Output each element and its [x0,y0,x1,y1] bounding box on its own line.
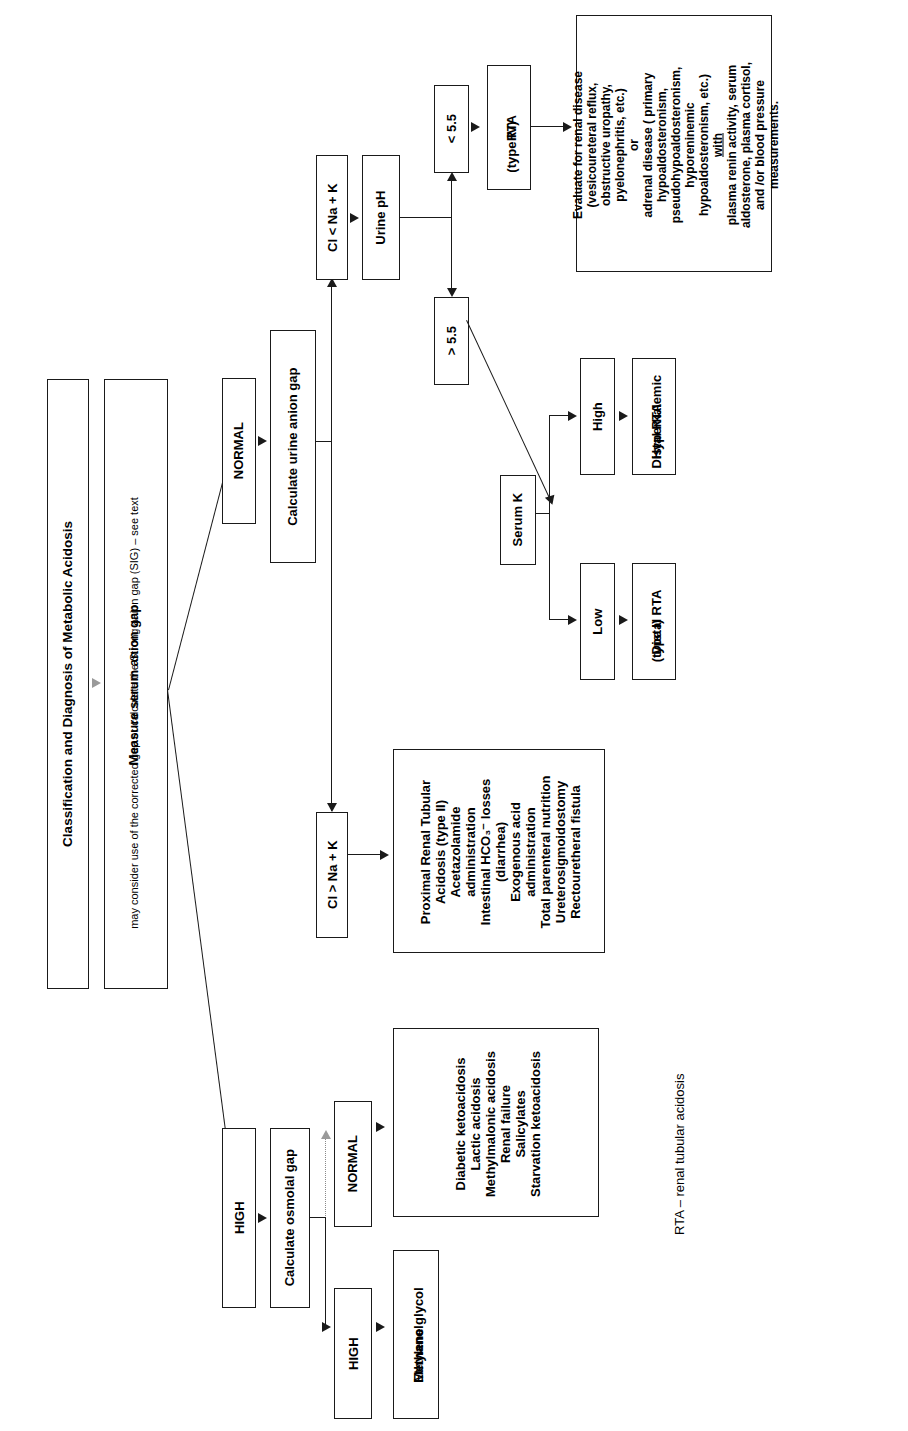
serum-k-split-stub [536,513,550,514]
proximal-line-5: Intestinal HCO₃⁻ losses [478,779,493,926]
normal-anion-gap-label: NORMAL [231,422,246,479]
serum-k-label: Serum K [510,493,525,546]
rta-type-iv-box: RTA (type IV) [487,65,531,190]
proximal-line-8: administration [523,807,538,897]
high-gap-cause-3: Methylmalonic acidosis [482,1051,497,1197]
osmolal-split-dotted-up [325,1138,326,1218]
osmolal-normal-label: NORMAL [345,1135,360,1192]
normal-anion-gap-box: NORMAL [222,378,256,524]
proximal-line-1: Proximal Renal Tubular [418,780,433,924]
evaluate-line-4: pyelonephritis, etc.) [612,88,626,201]
proximal-line-3: Acetazolamide [448,806,463,897]
arrow-to-low-k [568,615,577,625]
branch-line-to-high [167,690,233,1182]
high-gap-cause-2: Lactic acidosis [467,1077,482,1170]
high-gap-causes-box: Diabetic ketoacidosis Lactic acidosis Me… [393,1028,599,1217]
ph-lt-5-5-label: < 5.5 [444,114,459,143]
urine-gap-split-stub [316,441,332,442]
serum-k-split-vertical [549,415,550,620]
arrow-cl-gt-to-proximal [380,850,389,860]
evaluate-line-15: measurements. [766,100,780,188]
proximal-line-7: Exogenous acid [508,802,523,902]
arrow-normal-to-urine-gap [258,436,267,446]
legend-rta-abbreviation: RTA – renal tubular acidosis [672,1074,687,1235]
proximal-line-2: Acidosis (type II) [433,800,448,904]
ph-gt-5-5-label: > 5.5 [444,326,459,355]
proximal-line-9: Total parenteral nutrition [538,776,553,929]
osmolal-normal-box: NORMAL [334,1101,372,1227]
serum-k-low-box: Low [580,563,615,680]
arrow-cl-lt-to-urine-ph [350,213,359,223]
arrow-osm-normal-to-causes [376,1122,385,1132]
ph-lt-5-5-box: < 5.5 [434,85,469,173]
high-anion-gap-box: HIGH [222,1128,256,1308]
calculate-urine-anion-gap-box: Calculate urine anion gap [270,330,316,563]
arrow-to-cl-gt-box [327,803,337,812]
hyperkalemic-line-2: Distal RTA [648,404,663,469]
evaluate-line-13: aldosterone, plasma cortisol, [738,61,752,227]
serum-k-low-label: Low [590,608,605,634]
proximal-line-11: Rectouretheral fistula [568,785,583,919]
serum-k-high-box: High [580,358,615,475]
distal-rta-line-2: (type I) [648,620,663,663]
high-gap-cause-6: Starvation ketoacidosis [527,1051,542,1197]
proximal-line-4: administration [463,807,478,897]
calculate-urine-anion-gap-label: Calculate urine anion gap [285,367,300,525]
arrow-high-to-hyperkalemic [619,411,628,421]
cl-gt-na-k-label: Cl > Na + K [324,841,339,910]
rta-type-iv-line2: (type IV) [504,121,519,172]
serum-k-high-label: High [590,402,605,431]
evaluate-line-3: obstructive uropathy, [598,84,612,206]
cl-lt-na-k-box: Cl < Na + K [316,155,348,280]
proximal-line-10: Ureterosigmoidostomy [553,781,568,923]
urine-ph-split-vertical [451,180,452,295]
evaluate-line-12: plasma renin activity, serum [724,64,738,225]
title-box-label: Classification and Diagnosis of Metaboli… [60,521,76,847]
high-anion-gap-label: HIGH [231,1202,246,1235]
evaluate-line-8: pseudohypoaldosteronism, [668,66,682,223]
distal-rta-type-i-box: Distal RTA (type I) [632,563,676,680]
evaluate-line-10: hypoaldosteronism, etc.) [696,73,710,215]
urine-ph-label: Urine pH [373,190,388,244]
cl-gt-na-k-box: Cl > Na + K [316,812,348,938]
serum-k-box: Serum K [500,475,536,565]
evaluate-line-5: or [626,139,640,151]
flowchart-canvas: Classification and Diagnosis of Metaboli… [0,0,908,1431]
cl-gt-to-proximal-line [348,854,382,855]
ethylene-line-2: Methanol [410,1325,425,1382]
arrow-osm-high-to-ethylene [376,1322,385,1332]
calculate-osmolal-gap-label: Calculate osmolal gap [282,1149,297,1286]
evaluate-line-7: hypoaldosteronism, [654,87,668,201]
osmolal-high-label: HIGH [345,1337,360,1370]
high-gap-cause-5: Salicylates [512,1090,527,1157]
title-box: Classification and Diagnosis of Metaboli… [47,379,89,989]
evaluate-line-6: adrenal disease ( primary [640,72,654,217]
arrow-to-high-k [568,411,577,421]
hyperkalemic-distal-rta-box: Hyperkalemic Distal RTA [632,358,676,475]
high-gap-cause-4: Renal failure [497,1084,512,1162]
measure-serum-anion-gap-box: Measure serum anion gap may consider use… [104,379,168,989]
evaluate-line-14: and /or blood pressure [752,79,766,209]
proximal-line-6: (diarrhea) [493,822,508,882]
urine-ph-split-stub [400,217,452,218]
proximal-rta-causes-box: Proximal Renal Tubular Acidosis (type II… [393,749,605,953]
urine-gap-split-vertical [331,286,332,811]
evaluate-renal-disease-box: Evaluate for renal disease (vesicoureter… [576,15,772,272]
arrow-high-to-osmolal [258,1213,267,1223]
evaluate-line-11-with: with [710,133,724,157]
arrow-ph-lt-to-rta4 [471,122,480,132]
arrow-to-ph-lt-box [447,172,457,181]
osmolal-split-stub [310,1217,326,1218]
rta4-to-evaluate-line [531,126,565,127]
arrow-to-serum-k [545,495,557,507]
measure-box-subtitle: may consider use of the corrected gap or… [128,497,140,929]
cl-lt-na-k-label: Cl < Na + K [324,183,339,252]
evaluate-line-1: Evaluate for renal disease [570,70,584,218]
urine-ph-box: Urine pH [362,155,400,280]
ph-gt-5-5-box: > 5.5 [434,297,469,385]
high-gap-cause-1: Diabetic ketoacidosis [452,1057,467,1190]
arrow-title-to-measure [92,678,101,688]
osmolal-split-solid-down [325,1217,326,1327]
legend-text: RTA – renal tubular acidosis [672,1074,687,1235]
arrow-to-osm-normal [321,1130,331,1139]
